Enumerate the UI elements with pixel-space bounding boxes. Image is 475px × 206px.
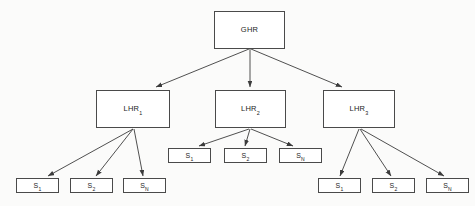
node-lhr1-s1[interactable]: S1	[16, 178, 59, 193]
node-lhr3-s2[interactable]: S2	[372, 178, 415, 193]
edge-lhr1-to-sn	[134, 129, 143, 176]
edge-lhr2-to-s1	[199, 129, 249, 146]
edge-lhr2-to-s2	[245, 129, 250, 146]
node-ghr[interactable]: GHR	[214, 11, 285, 49]
node-lhr2-s2-label: S2	[242, 152, 250, 159]
node-lhr2-s2[interactable]: S2	[224, 148, 267, 163]
node-lhr1[interactable]: LHR1	[96, 90, 170, 128]
edge-ghr-to-lhr1	[156, 49, 249, 87]
node-lhr1-sn-label: SN	[140, 182, 149, 189]
node-ghr-label: GHR	[241, 26, 258, 34]
edge-lhr3-to-s2	[360, 129, 391, 176]
node-lhr2-s1[interactable]: S1	[168, 148, 211, 163]
edge-lhr3-to-sn	[361, 129, 444, 176]
node-lhr1-sn[interactable]: SN	[123, 178, 166, 193]
node-lhr1-s2[interactable]: S2	[70, 178, 113, 193]
edge-lhr3-to-s1	[340, 129, 359, 176]
node-lhr1-s1-label: S1	[34, 182, 42, 189]
node-lhr2-sn[interactable]: SN	[279, 148, 322, 163]
node-lhr3-s1-label: S1	[336, 182, 344, 189]
node-lhr1-label: LHR1	[124, 105, 143, 113]
node-lhr2[interactable]: LHR2	[215, 90, 286, 128]
edge-lhr2-to-sn	[251, 129, 293, 146]
node-lhr3-s1[interactable]: S1	[318, 178, 361, 193]
node-lhr3-s2-label: S2	[390, 182, 398, 189]
node-lhr2-s1-label: S1	[186, 152, 194, 159]
node-lhr3-sn[interactable]: SN	[426, 178, 469, 193]
edge-lhr1-to-s2	[96, 129, 133, 176]
node-lhr3-sn-label: SN	[443, 182, 452, 189]
node-lhr3-label: LHR3	[350, 105, 369, 113]
node-lhr2-sn-label: SN	[296, 152, 305, 159]
node-lhr1-s2-label: S2	[88, 182, 96, 189]
node-lhr2-label: LHR2	[241, 105, 260, 113]
edge-ghr-to-lhr3	[251, 49, 342, 87]
edge-lhr1-to-s1	[48, 129, 133, 176]
node-lhr3[interactable]: LHR3	[323, 90, 395, 128]
diagram-canvas: GHR LHR1 LHR2 LHR3 S1 S2 SN S1	[0, 0, 475, 206]
